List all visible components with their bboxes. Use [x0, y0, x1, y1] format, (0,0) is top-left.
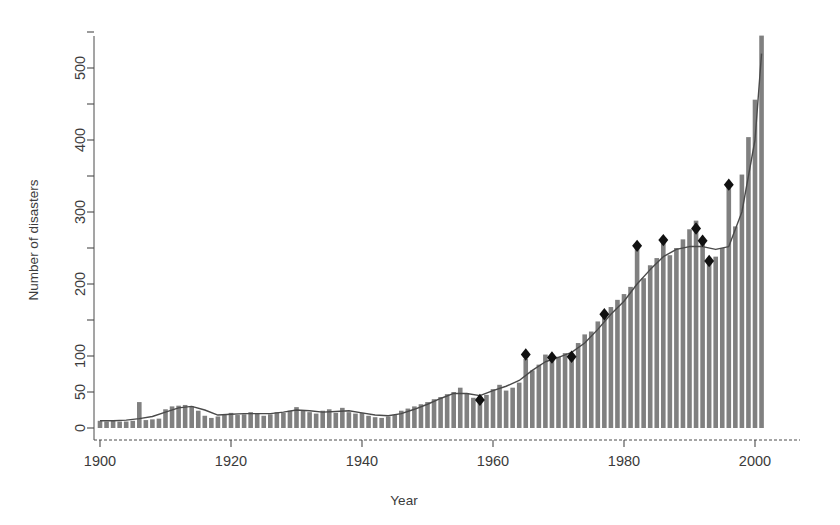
bar	[510, 388, 515, 428]
bar	[353, 414, 358, 428]
y-tick-label: 500	[72, 56, 88, 80]
bar	[425, 402, 430, 428]
bar	[628, 287, 633, 428]
bar	[386, 416, 391, 428]
bar	[268, 414, 273, 428]
bar	[314, 414, 319, 428]
y-tick-label: 0	[72, 424, 88, 432]
bar	[556, 357, 561, 428]
bar	[635, 248, 640, 428]
bar	[373, 417, 378, 428]
bar	[497, 385, 502, 428]
x-axis-label: Year	[390, 493, 418, 508]
bar	[124, 422, 129, 428]
bar	[733, 226, 738, 428]
bar	[727, 183, 732, 428]
x-tick-label: 1980	[608, 453, 640, 469]
bar	[366, 416, 371, 428]
bar	[517, 383, 522, 428]
bar	[320, 411, 325, 428]
bar	[523, 359, 528, 428]
bar	[98, 421, 103, 428]
bar	[144, 420, 149, 428]
bar	[196, 411, 201, 428]
bar	[661, 242, 666, 428]
bar	[654, 258, 659, 428]
bar	[438, 397, 443, 428]
bar	[229, 413, 234, 428]
bar	[465, 393, 470, 428]
bar	[117, 422, 122, 428]
bar	[569, 355, 574, 428]
bar	[550, 358, 555, 428]
bar	[504, 391, 509, 428]
bar	[307, 412, 312, 428]
bar	[392, 415, 397, 428]
y-tick-label: 50	[72, 384, 88, 400]
bar	[746, 137, 751, 428]
bar	[576, 343, 581, 428]
bar	[543, 355, 548, 428]
x-tick-label: 1940	[346, 453, 378, 469]
bar	[668, 255, 673, 428]
y-tick-label: 100	[72, 344, 88, 368]
bar	[111, 421, 116, 428]
bar	[137, 402, 142, 428]
y-tick-label: 200	[72, 272, 88, 296]
bar	[301, 410, 306, 428]
bar	[360, 413, 365, 428]
y-tick-label: 400	[72, 128, 88, 152]
bar	[203, 416, 208, 428]
bar	[707, 261, 712, 428]
bar	[471, 398, 476, 428]
bar	[183, 405, 188, 428]
disasters-per-year-chart: 1900192019401960198020000501002003004005…	[0, 0, 840, 525]
bar	[222, 415, 227, 428]
bar	[379, 418, 384, 428]
bar	[674, 248, 679, 428]
bar	[432, 399, 437, 428]
bar	[759, 36, 764, 428]
bar	[288, 411, 293, 428]
bar	[104, 422, 109, 428]
bar	[596, 321, 601, 428]
bar	[694, 221, 699, 428]
bar	[189, 406, 194, 428]
bar	[261, 416, 266, 428]
bar	[582, 334, 587, 428]
bar	[687, 229, 692, 428]
bar	[681, 239, 686, 428]
bar	[563, 353, 568, 428]
bar	[589, 332, 594, 428]
bar	[242, 414, 247, 428]
bar	[275, 412, 280, 428]
bar	[334, 413, 339, 428]
bar	[347, 412, 352, 428]
bar	[451, 392, 456, 428]
chart-figure: 1900192019401960198020000501002003004005…	[0, 0, 840, 525]
bar	[609, 307, 614, 428]
x-tick-label: 1920	[215, 453, 247, 469]
bar	[622, 294, 627, 428]
y-tick-label: 300	[72, 200, 88, 224]
bar	[255, 414, 260, 428]
bar	[150, 419, 155, 428]
bar	[602, 314, 607, 428]
bar	[484, 395, 489, 428]
y-axis-label: Number of disasters	[26, 179, 41, 300]
bar	[713, 257, 718, 428]
bar	[281, 413, 286, 428]
bar	[216, 416, 221, 428]
bar	[530, 370, 535, 428]
bar	[720, 248, 725, 428]
bar	[445, 394, 450, 428]
x-tick-label: 1960	[477, 453, 509, 469]
x-tick-label: 1900	[84, 453, 116, 469]
bar	[537, 365, 542, 428]
x-tick-label: 2000	[739, 453, 771, 469]
bar	[130, 421, 135, 428]
bar	[615, 300, 620, 428]
bar	[648, 265, 653, 428]
bar	[157, 419, 162, 428]
bar	[491, 389, 496, 428]
